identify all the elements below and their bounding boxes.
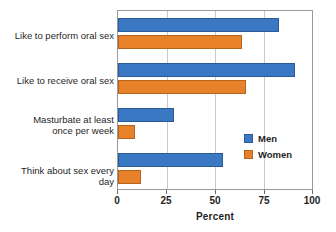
tick-label-50: 50 — [200, 195, 230, 206]
x-axis-title: Percent — [117, 211, 313, 222]
category-label-3: Think about sex every day — [4, 165, 114, 187]
tick-mark-75 — [264, 190, 265, 194]
category-label-0-line-0: Like to perform oral sex — [4, 30, 114, 41]
tick-mark-25 — [166, 190, 167, 194]
tick-label-25: 25 — [151, 195, 181, 206]
tick-label-75: 75 — [249, 195, 279, 206]
category-label-3-line-0: Think about sex every day — [4, 165, 114, 187]
legend: Men Women — [244, 131, 304, 163]
tick-mark-50 — [215, 190, 216, 194]
tick-mark-100 — [312, 190, 313, 194]
category-label-2: Masturbate at least once per week — [4, 114, 114, 136]
tick-mark-0 — [117, 190, 118, 194]
bar-men-1 — [118, 63, 295, 77]
category-label-2-line-0: Masturbate at least — [4, 114, 114, 125]
plot-area — [117, 10, 313, 190]
category-label-1: Like to receive oral sex — [4, 75, 114, 86]
category-label-1-line-0: Like to receive oral sex — [4, 75, 114, 86]
legend-item-men: Men — [244, 131, 304, 145]
bar-men-2 — [118, 108, 174, 122]
legend-swatch-men-icon — [244, 134, 253, 143]
bar-women-2 — [118, 125, 135, 139]
legend-item-women: Women — [244, 147, 304, 161]
bar-women-0 — [118, 35, 242, 49]
bar-women-3 — [118, 170, 141, 184]
bar-men-0 — [118, 18, 279, 32]
legend-label-women: Women — [258, 149, 292, 160]
bar-group-0 — [118, 11, 312, 56]
legend-swatch-women-icon — [244, 150, 253, 159]
category-label-0: Like to perform oral sex — [4, 30, 114, 41]
bar-women-1 — [118, 80, 246, 94]
bar-men-3 — [118, 153, 223, 167]
tick-label-100: 100 — [297, 195, 327, 206]
bar-group-1 — [118, 56, 312, 101]
legend-label-men: Men — [258, 133, 277, 144]
category-label-2-line-1: once per week — [4, 125, 114, 136]
bar-chart: Like to perform oral sex Like to receive… — [0, 0, 336, 232]
tick-label-0: 0 — [102, 195, 132, 206]
